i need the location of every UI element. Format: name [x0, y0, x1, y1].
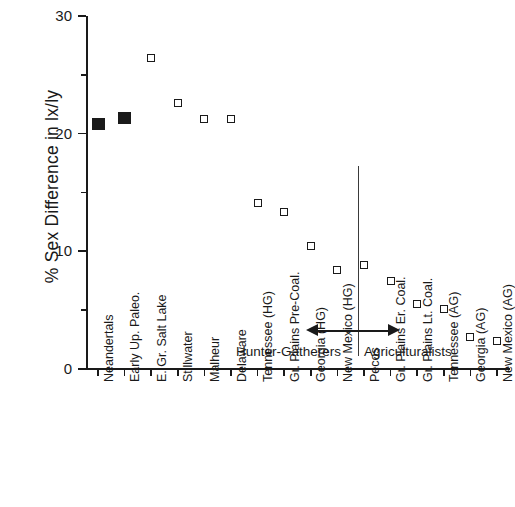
x-category-label: Tennessee (AG) [448, 292, 461, 382]
x-tick [97, 368, 99, 376]
annotation-hunter-gatherers: Hunter-Gatherers [236, 344, 341, 359]
hunter-gatherers-arrowhead-icon [306, 324, 318, 336]
data-point [360, 261, 368, 269]
y-tick-label: 30 [20, 8, 72, 23]
x-category-label: Tennessee (HG) [262, 291, 275, 382]
x-tick [470, 368, 472, 376]
data-point [92, 118, 105, 130]
x-tick [416, 368, 418, 376]
x-category-label: Gr. Plains Lt. Coal. [422, 278, 435, 382]
x-category-label: Malheur [209, 337, 222, 382]
x-tick [337, 368, 339, 376]
data-point [333, 266, 341, 274]
x-tick [310, 368, 312, 376]
data-point [174, 99, 182, 107]
x-tick [150, 368, 152, 376]
x-category-label: Neandertals [103, 315, 116, 382]
y-tick-label: 10 [20, 243, 72, 258]
x-tick [496, 368, 498, 376]
group-divider-line [358, 166, 360, 356]
y-tick-major [78, 250, 86, 252]
y-tick-label: 20 [20, 126, 72, 141]
x-category-label: New Mexico (AG) [502, 284, 515, 382]
data-point [118, 112, 131, 124]
data-point [254, 199, 262, 207]
scatter-chart: % Sex Difference in lx/ly 0102030 Neande… [0, 0, 515, 507]
x-category-label: Stillwater [182, 331, 195, 382]
y-tick-label: 0 [20, 361, 72, 376]
data-point [227, 115, 235, 123]
x-category-label: Georgia (AG) [475, 308, 488, 382]
data-point [280, 208, 288, 216]
agriculturalists-arrowhead-icon [388, 324, 400, 336]
annotation-agriculturalists: Agriculturalists [364, 344, 452, 359]
x-tick [124, 368, 126, 376]
y-tick-minor [81, 192, 86, 194]
x-tick [230, 368, 232, 376]
x-tick [443, 368, 445, 376]
data-point [307, 242, 315, 250]
x-category-label: E. Gr. Salt Lake [156, 294, 169, 382]
x-tick [204, 368, 206, 376]
x-tick [390, 368, 392, 376]
data-point [200, 115, 208, 123]
y-axis-title: % Sex Difference in lx/ly [42, 17, 63, 357]
x-tick [177, 368, 179, 376]
x-tick [257, 368, 259, 376]
x-category-label: Gr. Plains Pre-Coal. [289, 272, 302, 382]
x-category-label: Early Up. Paleo. [129, 292, 142, 382]
y-tick-major [78, 133, 86, 135]
y-tick-minor [81, 74, 86, 76]
x-tick [283, 368, 285, 376]
x-category-label: New Mexico (HG) [342, 283, 355, 382]
y-tick-major [78, 368, 86, 370]
y-tick-minor [81, 309, 86, 311]
y-tick-major [78, 15, 86, 17]
data-point [493, 337, 501, 345]
y-axis-line [86, 16, 88, 369]
x-tick [363, 368, 365, 376]
data-point [413, 300, 421, 308]
data-point [147, 54, 155, 62]
